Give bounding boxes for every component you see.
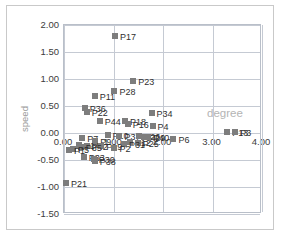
data-point-label: P3	[240, 128, 251, 138]
data-point-marker	[112, 33, 118, 39]
data-point-label: P17	[120, 32, 136, 42]
data-point-marker	[66, 147, 72, 153]
data-point-marker	[150, 123, 156, 129]
gridline-vertical	[262, 25, 263, 212]
y-tick-label: 0.50	[7, 100, 63, 111]
data-point-marker	[84, 109, 90, 115]
data-point-marker	[130, 78, 136, 84]
data-point-label: P16	[133, 120, 149, 130]
y-tick-label: -0.50	[7, 154, 63, 165]
y-tick-label: -1.50	[7, 208, 63, 219]
data-point-label: P25	[143, 139, 159, 149]
data-point-label: P4	[158, 122, 169, 132]
gridline-horizontal	[64, 79, 260, 80]
data-point-marker	[111, 145, 117, 151]
gridline-vertical	[213, 25, 214, 212]
data-point-label: P44	[105, 117, 121, 127]
data-point-marker	[170, 136, 176, 142]
data-point-marker	[92, 158, 98, 164]
data-point-marker	[63, 180, 69, 186]
data-point-label: P11	[100, 92, 115, 102]
gridline-horizontal	[64, 52, 260, 53]
y-tick-label: 1.50	[7, 46, 63, 57]
data-point-label: P2	[119, 144, 130, 154]
data-point-marker	[149, 110, 155, 116]
gridline-horizontal	[64, 25, 260, 26]
data-point-label: P34	[157, 109, 173, 119]
data-point-marker	[116, 133, 122, 139]
data-point-label: P21	[71, 179, 87, 189]
data-point-label: P38	[100, 157, 116, 167]
data-point-label: P23	[138, 77, 154, 87]
data-point-marker	[97, 118, 103, 124]
y-tick-label: 2.00	[7, 19, 63, 30]
data-point-marker	[224, 129, 230, 135]
data-point-label: P31	[129, 140, 145, 150]
data-point-label: P28	[119, 87, 135, 97]
data-point-marker	[125, 121, 131, 127]
data-point-label: P6	[178, 135, 189, 145]
scatter-chart-frame: speed degree 2.001.501.000.500.00-0.50-1…	[6, 5, 274, 230]
gridline-horizontal	[64, 187, 260, 188]
gridline-horizontal	[64, 214, 260, 215]
y-tick-label: -1.00	[7, 181, 63, 192]
plot-area: P17P23P28P11P36P22P34P18P44P16P4P13P3P10…	[63, 24, 261, 213]
data-point-marker	[81, 154, 87, 160]
data-point-marker	[232, 129, 238, 135]
data-point-marker	[92, 93, 98, 99]
y-tick-label: 1.00	[7, 73, 63, 84]
